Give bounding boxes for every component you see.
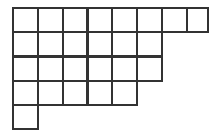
staircase-grid-drawing — [0, 0, 218, 140]
grid-lines-layer — [13, 8, 208, 129]
figure-container — [0, 0, 218, 140]
